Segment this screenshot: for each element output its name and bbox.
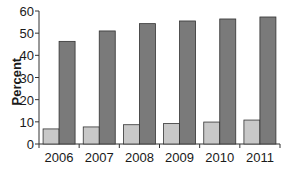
y-tick-label: 40 xyxy=(20,48,34,63)
bar-chart: 0102030405060200620072008200920102011 xyxy=(0,0,281,169)
y-tick-label: 50 xyxy=(20,26,34,41)
bar-2011-series-2 xyxy=(260,17,276,144)
bar-2007-series-1 xyxy=(83,127,99,144)
bar-2006-series-1 xyxy=(43,129,59,144)
bar-2007-series-2 xyxy=(99,31,115,144)
y-tick-label: 60 xyxy=(20,4,34,19)
x-tick-label: 2006 xyxy=(45,150,74,165)
x-tick-label: 2008 xyxy=(125,150,154,165)
bar-2009-series-1 xyxy=(164,124,180,144)
y-tick-label: 30 xyxy=(20,71,34,86)
bar-2010-series-1 xyxy=(204,122,220,144)
x-tick-label: 2007 xyxy=(85,150,114,165)
bar-2009-series-2 xyxy=(180,21,196,144)
x-tick-label: 2010 xyxy=(205,150,234,165)
bar-2011-series-1 xyxy=(244,120,260,144)
bar-2010-series-2 xyxy=(220,19,236,144)
x-tick-label: 2011 xyxy=(246,150,274,165)
y-tick-label: 0 xyxy=(27,137,34,152)
x-tick-label: 2009 xyxy=(165,150,194,165)
bar-2008-series-1 xyxy=(123,125,139,144)
bar-2008-series-2 xyxy=(139,24,155,144)
bar-2006-series-2 xyxy=(59,41,75,144)
y-tick-label: 20 xyxy=(20,93,34,108)
y-tick-label: 10 xyxy=(20,115,34,130)
